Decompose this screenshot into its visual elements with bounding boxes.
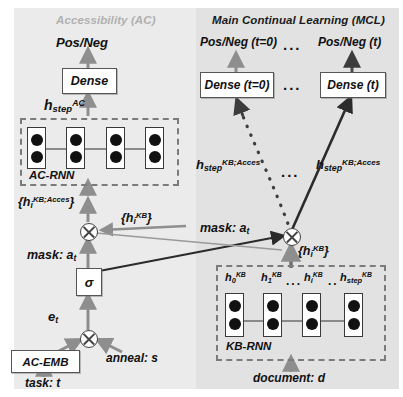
ac-rnn-unit-dot <box>110 151 122 163</box>
kb-rnn-unit-dot <box>348 318 360 330</box>
kb-set-right-open: {h <box>298 244 311 258</box>
task-input-label: task: t <box>25 377 60 389</box>
kb-state-h1-sup: KB <box>272 271 282 278</box>
kb-rnn-unit-dot <box>306 300 318 312</box>
anneal-label: anneal: s <box>106 352 158 364</box>
ac-hstep-sub: step <box>53 103 73 114</box>
kb-state-h0-sup: KB <box>236 271 246 278</box>
mcl-hstep-right-sub: step <box>324 163 342 173</box>
mcl-output-t-label: Pos/Neg (t) <box>318 36 381 48</box>
ac-dense-box: Dense <box>62 68 117 94</box>
dense-t0-box[interactable]: Dense (t=0) <box>200 72 274 98</box>
ac-rnn-cell <box>27 127 46 169</box>
ac-hstep-label: hstepAC <box>44 98 85 114</box>
mcl-dense-ellipsis: ... <box>283 76 302 93</box>
ac-rnn-unit-dot <box>70 151 82 163</box>
kb-state-hstep-sub: step <box>347 276 362 285</box>
ac-mask-product-node <box>80 223 98 241</box>
ac-emb-box: AC-EMB <box>11 350 80 373</box>
kb-rnn-cell <box>263 293 282 337</box>
ac-mask-text: mask: a <box>27 248 74 262</box>
kb-state-h0: h0KB <box>225 272 246 284</box>
kb-state-hi-h: h <box>304 271 311 283</box>
kb-rnn-chain-line <box>232 320 362 322</box>
mcl-hstep-right-h: h <box>316 157 324 172</box>
ac-hstep-h: h <box>44 97 53 113</box>
kb-state-hstep-sup: KB <box>362 271 372 278</box>
mcl-hstep-left-h: h <box>196 157 204 172</box>
kb-rnn-unit-dot <box>306 318 318 330</box>
kb-state-hi-sup: KB <box>313 271 323 278</box>
kb-state-hi: hiKB <box>304 272 323 284</box>
sigma-box: σ <box>76 268 102 296</box>
accessibility-panel-title: Accessibility (AC) <box>56 14 156 26</box>
kb-rnn-cell <box>344 293 363 337</box>
ac-output-label: Pos/Neg <box>56 36 108 49</box>
ac-rnn-cell <box>145 127 164 169</box>
mcl-mid-ellipsis: ... <box>281 163 300 180</box>
kb-set-right-close: } <box>324 244 329 258</box>
masked-set-label: {hiKB;Acces} <box>18 196 74 209</box>
kb-set-label-left: {hiKB} <box>121 212 152 225</box>
kb-rnn-unit-dot <box>229 318 241 330</box>
kb-state-hstep-h: h <box>340 271 347 283</box>
kb-rnn-cell <box>302 293 321 337</box>
kb-state-h1-h: h <box>261 271 268 283</box>
ac-rnn-name: AC-RNN <box>29 170 74 182</box>
kb-state-hstep: hstepKB <box>340 272 372 284</box>
mcl-hstep-left-sub: step <box>204 163 222 173</box>
kb-set-right-sup: KB <box>313 244 324 253</box>
kb-state-h1: h1KB <box>261 272 282 284</box>
kb-set-open: {h <box>121 211 134 225</box>
kb-rnn-unit-dot <box>267 300 279 312</box>
ac-emb-product-node <box>80 330 98 348</box>
kb-rnn-name: KB-RNN <box>226 341 271 353</box>
ac-rnn-unit-dot <box>149 151 161 163</box>
ac-rnn-unit-dot <box>31 151 43 163</box>
kb-mask-sub: t <box>247 226 250 236</box>
kb-mask-text: mask: a <box>200 221 247 235</box>
kb-rnn-cell <box>225 293 244 337</box>
kb-mask-label: mask: at <box>200 222 249 235</box>
mcl-hstep-left-sup: KB;Acces <box>222 158 260 167</box>
kb-set-close: } <box>147 211 152 225</box>
kb-state-h0-h: h <box>225 271 232 283</box>
figure-canvas: Accessibility (AC) Main Continual Learni… <box>0 0 403 397</box>
ac-mask-sub: t <box>74 253 77 263</box>
mcl-hstep-left-label: hstepKB;Acces <box>196 158 260 173</box>
ac-rnn-chain-line <box>35 148 163 150</box>
mcl-output-t0-label: Pos/Neg (t=0) <box>200 36 277 48</box>
ac-rnn-cell <box>66 127 85 169</box>
ac-rnn-unit-dot <box>31 134 43 146</box>
kb-set-sup: KB <box>136 211 147 220</box>
kb-rnn-unit-dot <box>229 300 241 312</box>
masked-set-close: } <box>70 195 75 209</box>
ac-rnn-unit-dot <box>70 134 82 146</box>
mcl-hstep-right-label: hstepKB;Acces <box>316 158 380 173</box>
mcl-output-ellipsis: ... <box>283 36 302 53</box>
ac-mask-label: mask: at <box>27 249 76 262</box>
kb-state-ellipsis-1: ... <box>286 274 302 288</box>
mcl-panel-title: Main Continual Learning (MCL) <box>212 14 385 26</box>
masked-set-sup: KB;Acces <box>33 195 70 204</box>
ac-rnn-unit-dot <box>149 134 161 146</box>
kb-rnn-unit-dot <box>348 300 360 312</box>
mcl-hstep-right-sup: KB;Acces <box>342 158 380 167</box>
ac-rnn-cell <box>106 127 125 169</box>
kb-set-label-right: {hiKB} <box>298 245 329 258</box>
dense-t-box[interactable]: Dense (t) <box>320 72 386 98</box>
masked-set-open: {h <box>18 195 31 209</box>
e-t-sub: t <box>55 315 58 325</box>
ac-rnn-unit-dot <box>110 134 122 146</box>
document-input-label: document: d <box>253 372 325 384</box>
e-t-label: et <box>48 310 58 325</box>
kb-rnn-unit-dot <box>267 318 279 330</box>
kb-state-ellipsis-2: .. <box>328 274 339 288</box>
ac-hstep-sup: AC <box>72 98 85 108</box>
